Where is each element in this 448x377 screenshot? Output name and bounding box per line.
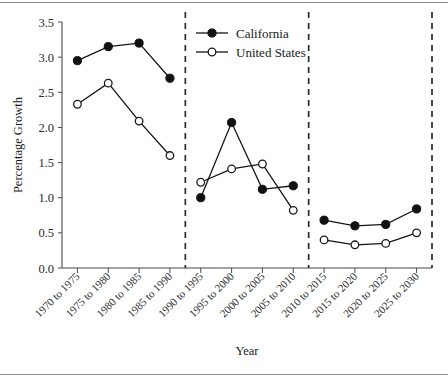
data-point-marker[interactable]	[104, 79, 112, 87]
data-point-marker[interactable]	[166, 152, 174, 160]
legend-label: United States	[236, 45, 306, 60]
y-axis-title: Percentage Growth	[11, 96, 25, 193]
percentage-growth-line-chart: 0.00.51.01.52.02.53.03.5 1970 to 1975197…	[0, 0, 448, 377]
data-point-marker[interactable]	[351, 241, 359, 249]
data-point-marker[interactable]	[258, 185, 266, 193]
data-point-marker[interactable]	[382, 220, 390, 228]
y-tick-label: 1.5	[38, 156, 54, 170]
y-tick-label: 0.0	[38, 262, 54, 276]
data-point-marker[interactable]	[166, 74, 174, 82]
data-point-marker[interactable]	[74, 100, 82, 108]
data-point-marker[interactable]	[351, 222, 359, 230]
data-point-marker[interactable]	[382, 240, 390, 248]
data-point-marker[interactable]	[320, 236, 328, 244]
data-point-marker[interactable]	[73, 57, 81, 65]
legend-label: California	[236, 26, 289, 41]
data-point-marker[interactable]	[197, 178, 205, 186]
data-point-marker[interactable]	[289, 207, 297, 215]
y-tick-label: 3.5	[38, 16, 54, 30]
data-point-marker[interactable]	[135, 117, 143, 125]
data-point-marker[interactable]	[227, 118, 235, 126]
data-point-marker[interactable]	[412, 205, 420, 213]
data-point-marker[interactable]	[228, 165, 236, 173]
y-tick-label: 2.5	[38, 86, 54, 100]
data-point-marker[interactable]	[135, 39, 143, 47]
data-point-marker[interactable]	[320, 216, 328, 224]
x-axis-title: Year	[235, 344, 259, 358]
chart-container: 0.00.51.01.52.02.53.03.5 1970 to 1975197…	[0, 0, 448, 377]
data-point-marker[interactable]	[197, 194, 205, 202]
data-point-marker[interactable]	[289, 182, 297, 190]
data-point-marker[interactable]	[259, 160, 267, 168]
y-tick-label: 1.0	[38, 191, 54, 205]
y-tick-label: 2.0	[38, 121, 54, 135]
y-tick-label: 3.0	[38, 51, 54, 65]
legend-open-circle-icon	[208, 48, 216, 56]
y-tick-label: 0.5	[38, 226, 54, 240]
legend-filled-circle-icon	[208, 29, 216, 37]
data-point-marker[interactable]	[104, 43, 112, 51]
chart-background	[0, 0, 448, 377]
data-point-marker[interactable]	[413, 229, 421, 237]
